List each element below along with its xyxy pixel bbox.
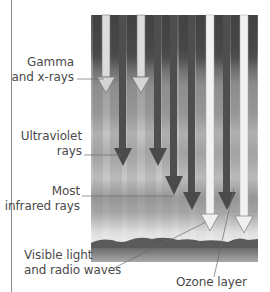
ultraviolet-label-line-2: rays: [21, 144, 82, 159]
visible-label-line-2: and radio waves: [24, 263, 121, 278]
infrared-label-line-1: Most: [5, 184, 80, 199]
infrared-label: Most infrared rays: [5, 184, 80, 214]
infrared-label-line-2: infrared rays: [5, 199, 80, 214]
gamma-label: Gamma and x-rays: [12, 55, 74, 85]
gamma-label-line-2: and x-rays: [12, 70, 74, 85]
visible-label-line-1: Visible light: [24, 248, 121, 263]
visible-label: Visible light and radio waves: [24, 248, 121, 278]
ultraviolet-label: Ultraviolet rays: [21, 129, 82, 159]
ultraviolet-label-line-1: Ultraviolet: [21, 129, 82, 144]
gamma-label-line-1: Gamma: [12, 55, 74, 70]
ozone-label: Ozone layer: [176, 275, 247, 290]
